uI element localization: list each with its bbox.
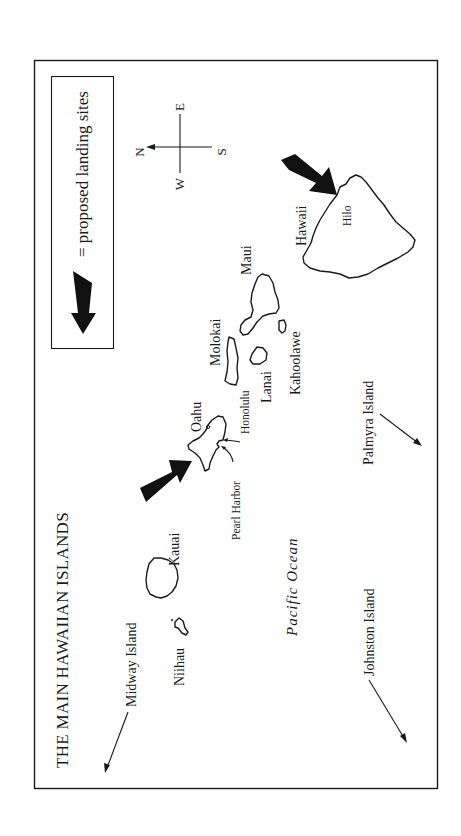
remote-johnston: Johnston Island bbox=[362, 589, 407, 744]
compass-south: S bbox=[214, 148, 229, 155]
island-oahu: Oahu Honolulu Pearl Harbor bbox=[140, 390, 251, 540]
island-hawaii: Hawaii Hilo bbox=[281, 154, 415, 278]
remote-midway: Midway Island bbox=[104, 623, 139, 773]
johnston-arrow-icon bbox=[400, 733, 407, 743]
midway-arrow-icon bbox=[104, 763, 110, 773]
label-lanai: Lanai bbox=[259, 371, 274, 403]
label-hawaii: Hawaii bbox=[294, 205, 309, 246]
label-pearl-harbor: Pearl Harbor bbox=[230, 481, 242, 540]
island-molokai: Molokai bbox=[208, 318, 238, 385]
island-maui: Maui bbox=[239, 245, 279, 335]
label-palmyra-island: Palmyra Island bbox=[361, 381, 376, 465]
map-frame bbox=[35, 61, 438, 789]
label-niihau: Niihau bbox=[172, 648, 187, 686]
landing-arrow-pearl-harbor-icon bbox=[140, 460, 192, 502]
label-honolulu: Honolulu bbox=[239, 390, 251, 434]
island-lanai: Lanai bbox=[250, 347, 274, 403]
island-kahoolawe: Kahoolawe bbox=[279, 320, 303, 395]
label-maui: Maui bbox=[239, 245, 254, 275]
compass-north: N bbox=[132, 147, 147, 157]
landing-arrow-icon bbox=[71, 271, 96, 334]
label-midway-island: Midway Island bbox=[124, 623, 139, 707]
label-oahu: Oahu bbox=[189, 402, 204, 432]
island-niihau: Niihau bbox=[171, 618, 188, 686]
compass-rose: N S E W bbox=[132, 103, 229, 190]
palmyra-arrow-icon bbox=[413, 438, 422, 446]
hawaiian-islands-map: THE MAIN HAWAIIAN ISLANDS = proposed lan… bbox=[0, 0, 461, 836]
landing-arrow-hilo-icon bbox=[281, 154, 337, 195]
label-pacific-ocean: Pacific Ocean bbox=[284, 538, 300, 637]
island-kauai: Kauai bbox=[146, 532, 182, 598]
north-arrow-icon bbox=[146, 144, 155, 150]
map-title: THE MAIN HAWAIIAN ISLANDS bbox=[53, 512, 72, 768]
label-molokai: Molokai bbox=[208, 318, 223, 366]
legend-text: = proposed landing sites bbox=[73, 91, 92, 257]
label-kauai: Kauai bbox=[167, 532, 182, 566]
compass-east: E bbox=[172, 103, 187, 111]
compass-west: W bbox=[172, 177, 187, 190]
legend: = proposed landing sites bbox=[52, 77, 114, 349]
remote-palmyra: Palmyra Island bbox=[361, 381, 422, 465]
label-hilo: Hilo bbox=[341, 205, 353, 226]
label-kahoolawe: Kahoolawe bbox=[288, 331, 303, 395]
label-johnston-island: Johnston Island bbox=[362, 589, 377, 677]
